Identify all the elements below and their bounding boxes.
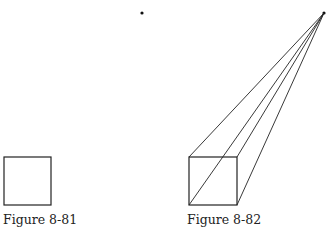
caption-figure-8-81: Figure 8-81 — [3, 212, 77, 227]
caption-figure-8-82: Figure 8-82 — [187, 212, 261, 227]
projection-lines — [189, 13, 324, 205]
square-figure-8-82 — [189, 157, 237, 205]
square-figure-8-81 — [4, 157, 51, 205]
stray-dot — [140, 11, 143, 14]
perspective-diagram — [0, 0, 332, 234]
